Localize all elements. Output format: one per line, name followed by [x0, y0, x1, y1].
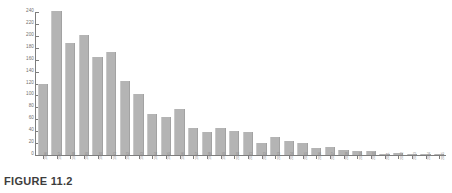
y-axis-tick-mark: [35, 155, 39, 156]
chart-bar: [51, 11, 61, 155]
y-axis-tick-label: 200: [26, 32, 34, 37]
x-axis-tick-mark: [275, 156, 276, 159]
x-axis-tick-mark: [70, 156, 71, 159]
x-axis-tick-label: 1997: [195, 152, 199, 160]
chart-bar: [65, 43, 75, 155]
x-axis-tick-mark: [234, 156, 235, 159]
chart-bar: [79, 35, 89, 155]
y-axis-tick-mark: [35, 72, 39, 73]
x-axis-tick-label: 2013: [413, 152, 417, 160]
x-axis-tick-label: 1986: [44, 152, 48, 160]
y-axis-tick-mark: [35, 36, 39, 37]
y-axis-tick-label: 80: [29, 103, 34, 108]
chart-bar: [106, 52, 116, 155]
x-axis-tick-mark: [439, 156, 440, 159]
y-axis-tick-label: 100: [26, 91, 34, 96]
x-axis-tick-mark: [398, 156, 399, 159]
x-axis-tick-label: 1987: [58, 152, 62, 160]
chart-bar: [120, 81, 130, 155]
y-axis-tick-mark: [35, 12, 39, 13]
x-axis-tick-label: 1993: [140, 152, 144, 160]
y-axis-tick-label: 20: [29, 139, 34, 144]
x-axis-tick-label: 1992: [126, 152, 130, 160]
chart-bar: [174, 109, 184, 155]
y-axis-tick-label: 160: [26, 56, 34, 61]
chart-bar: [215, 128, 225, 155]
x-axis-tick-label: 1998: [208, 152, 212, 160]
chart-bar: [92, 57, 102, 155]
y-axis-tick-label: 240: [26, 8, 34, 13]
x-axis-tick-label: 2008: [345, 152, 349, 160]
y-axis-tick-mark: [35, 60, 39, 61]
x-axis-tick-label: 2002: [263, 152, 267, 160]
x-axis-tick-label: 1988: [72, 152, 76, 160]
chart-bar: [188, 128, 198, 155]
figure-caption: FIGURE 11.2: [4, 175, 73, 187]
y-axis-tick-label: 0: [31, 151, 34, 156]
x-axis-tick-label: 2004: [290, 152, 294, 160]
x-axis-tick-label: 1991: [113, 152, 117, 160]
y-axis-tick-label: 120: [26, 80, 34, 85]
x-axis-tick-mark: [111, 156, 112, 159]
y-axis-tick-mark: [35, 48, 39, 49]
y-axis-tick-mark: [35, 24, 39, 25]
y-axis-tick-label: 220: [26, 20, 34, 25]
chart-bar: [38, 84, 48, 156]
x-axis-tick-mark: [357, 156, 358, 159]
x-axis-tick-label: 2001: [249, 152, 253, 160]
chart-bar: [133, 94, 143, 155]
x-axis-tick-label: 1989: [85, 152, 89, 160]
figure-container: 020406080100120140160180200220240 198619…: [0, 0, 452, 193]
x-axis-tick-label: 1999: [222, 152, 226, 160]
x-axis-tick-label: 2009: [359, 152, 363, 160]
x-axis-tick-label: 1995: [167, 152, 171, 160]
y-axis-tick-label: 40: [29, 127, 34, 132]
x-axis-tick-label: 2006: [318, 152, 322, 160]
chart-bar: [147, 114, 157, 155]
x-axis-tick-mark: [152, 156, 153, 159]
y-axis-tick-label: 180: [26, 44, 34, 49]
x-axis-tick-label: 2000: [236, 152, 240, 160]
x-axis-tick-label: 2010: [372, 152, 376, 160]
x-axis-tick-label: 2014: [427, 152, 431, 160]
x-axis-tick-label: 2015: [441, 152, 445, 160]
y-axis-tick-label: 140: [26, 68, 34, 73]
x-axis-tick-label: 2005: [304, 152, 308, 160]
x-axis-tick-mark: [193, 156, 194, 159]
x-axis-tick-label: 1996: [181, 152, 185, 160]
x-axis-tick-label: 2011: [386, 152, 390, 160]
bar-chart: 020406080100120140160180200220240 198619…: [0, 0, 452, 168]
chart-bar: [161, 117, 171, 155]
x-axis-tick-mark: [316, 156, 317, 159]
x-axis-tick-label: 2012: [400, 152, 404, 160]
x-axis-tick-label: 1990: [99, 152, 103, 160]
x-axis-tick-label: 2007: [331, 152, 335, 160]
x-axis-tick-label: 2003: [277, 152, 281, 160]
y-axis-tick-label: 60: [29, 115, 34, 120]
x-axis-tick-label: 1994: [154, 152, 158, 160]
